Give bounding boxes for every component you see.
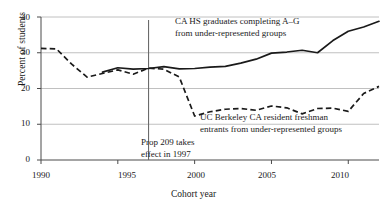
- dashed-series-annotation-line2: entrants from under-represented groups: [200, 124, 342, 136]
- x-axis-title: Cohort year: [0, 189, 387, 199]
- y-tick-label-0: 0: [4, 154, 30, 164]
- prop209-annotation-line2: effect in 1997: [141, 149, 195, 161]
- solid-series-annotation-line1: CA HS graduates completing A–G: [175, 16, 300, 28]
- prop209-annotation-line1: Prop 209 takes: [141, 137, 195, 149]
- x-tick-label-1995: 1995: [105, 170, 149, 180]
- y-tick-label-20: 20: [4, 83, 30, 93]
- dashed-series-annotation: UC Berkeley CA resident freshman entrant…: [200, 112, 342, 135]
- x-tick-label-1990: 1990: [19, 170, 63, 180]
- y-tick-label-10: 10: [4, 118, 30, 128]
- x-tick-label-2000: 2000: [174, 170, 218, 180]
- solid-series-annotation-line2: from under-represented groups: [175, 28, 300, 40]
- x-tick-label-2005: 2005: [245, 170, 289, 180]
- dashed-series-annotation-line1: UC Berkeley CA resident freshman: [200, 112, 342, 124]
- y-tick-label-40: 40: [4, 12, 30, 22]
- chart-figure: Percent of students Cohort year 40 30 20…: [0, 0, 387, 207]
- solid-series-annotation: CA HS graduates completing A–G from unde…: [175, 16, 300, 39]
- x-tick-label-2010: 2010: [318, 170, 362, 180]
- prop209-annotation: Prop 209 takes effect in 1997: [141, 137, 195, 160]
- y-tick-label-30: 30: [4, 47, 30, 57]
- series-line-uc-berkeley-entrants: [41, 48, 379, 116]
